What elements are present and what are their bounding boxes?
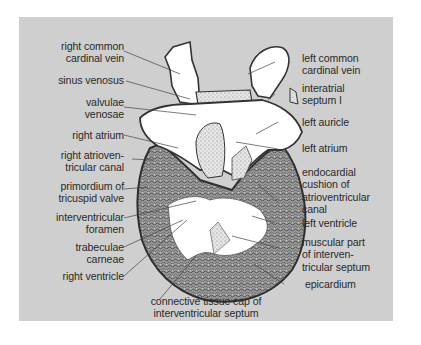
- label-line: venosae: [85, 108, 124, 120]
- label-line: cardinal vein: [61, 52, 124, 64]
- label-left-ventricle: left ventricle: [302, 217, 357, 229]
- label-line: left atrium: [302, 142, 347, 154]
- label-line: cardinal vein: [302, 64, 360, 76]
- label-primordium-of-tricuspid-valve: primordium of tricuspid valve: [58, 180, 124, 205]
- label-line: interventricular: [56, 211, 124, 223]
- label-right-atrioventricular-canal: right atrioven- tricular canal: [61, 149, 124, 174]
- label-line: tricular septum: [302, 261, 370, 273]
- label-left-auricle: left auricle: [302, 116, 349, 128]
- label-line: atrioventricular: [302, 191, 370, 203]
- label-right-atrium: right atrium: [72, 129, 124, 141]
- label-right-ventricle: right ventricle: [63, 270, 125, 282]
- label-epicardium: epicardium: [305, 278, 356, 290]
- label-line: of interven-: [302, 248, 370, 260]
- label-right-common-cardinal-vein: right common cardinal vein: [61, 40, 124, 65]
- label-line: tricular canal: [61, 161, 124, 173]
- label-line: interatrial: [302, 82, 344, 94]
- label-line: right ventricle: [63, 270, 125, 282]
- label-line: valvulae: [85, 96, 124, 108]
- label-endocardial-cushion: endocardial cushion of atrioventricular …: [302, 166, 370, 216]
- label-line: cushion of: [302, 178, 370, 190]
- label-line: interventricular septum: [108, 307, 304, 319]
- label-left-common-cardinal-vein: left common cardinal vein: [302, 52, 360, 77]
- label-line: right atrium: [72, 129, 124, 141]
- label-line: right atrioven-: [61, 149, 124, 161]
- label-valvulae-venosae: valvulae venosae: [85, 96, 124, 121]
- label-sinus-venosus: sinus venosus: [58, 74, 124, 86]
- label-line: left common: [302, 52, 360, 64]
- label-interatrial-septum-i: interatrial septum I: [302, 82, 344, 107]
- label-line: sinus venosus: [58, 74, 124, 86]
- label-trabeculae-carneae: trabeculae carneae: [76, 241, 124, 266]
- label-line: epicardium: [305, 278, 356, 290]
- label-line: primordium of: [58, 180, 124, 192]
- label-line: endocardial: [302, 166, 370, 178]
- label-line: left ventricle: [302, 217, 357, 229]
- label-line: connective tissue cap of: [108, 295, 304, 307]
- label-connective-tissue-cap: connective tissue cap of interventricula…: [108, 295, 304, 320]
- label-line: trabeculae: [76, 241, 124, 253]
- label-line: septum I: [302, 94, 344, 106]
- label-interventricular-foramen: interventricular foramen: [56, 211, 124, 236]
- label-left-atrium: left atrium: [302, 142, 347, 154]
- label-muscular-part-of-interventricular-septum: muscular part of interven- tricular sept…: [302, 236, 370, 273]
- label-line: canal: [302, 203, 370, 215]
- label-line: muscular part: [302, 236, 370, 248]
- label-line: left auricle: [302, 116, 349, 128]
- label-line: foramen: [56, 223, 124, 235]
- label-line: tricuspid valve: [58, 192, 124, 204]
- label-line: carneae: [76, 253, 124, 265]
- label-line: right common: [61, 40, 124, 52]
